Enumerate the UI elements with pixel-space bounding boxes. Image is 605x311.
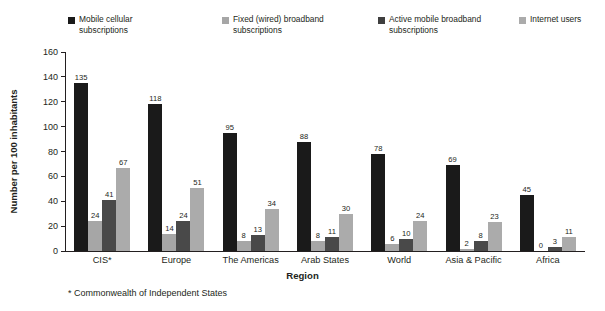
- x-axis-category-label: CIS*: [93, 255, 112, 265]
- bar-column: 11: [562, 52, 576, 251]
- bar-value-label: 10: [402, 229, 410, 238]
- y-axis-tick: 40: [48, 196, 65, 206]
- bar-group-bars: 450311: [511, 52, 585, 251]
- bar: [148, 104, 162, 251]
- chart-footnote: * Commonwealth of Independent States: [68, 288, 227, 298]
- bar: [474, 241, 488, 251]
- bar-column: 95: [223, 52, 237, 251]
- bar-value-label: 78: [374, 144, 382, 153]
- bar-value-label: 135: [75, 73, 88, 82]
- bar: [325, 237, 339, 251]
- bar-value-label: 23: [490, 212, 498, 221]
- bar-chart: Mobile cellular subscriptions Fixed (wir…: [0, 0, 605, 311]
- bar-group: 118142451Europe: [139, 52, 213, 251]
- bar: [399, 239, 413, 251]
- bar-group: 135244167CIS*: [65, 52, 139, 251]
- bar-value-label: 11: [328, 227, 336, 236]
- bar-column: 51: [190, 52, 204, 251]
- bar-value-label: 13: [253, 225, 261, 234]
- bar-value-label: 88: [300, 132, 308, 141]
- bar-value-label: 6: [390, 234, 394, 243]
- bar-group: 8881130Arab States: [288, 52, 362, 251]
- bar-column: 118: [148, 52, 162, 251]
- y-axis-tick: 20: [48, 221, 65, 231]
- bar: [311, 241, 325, 251]
- bar: [237, 241, 251, 251]
- bar-column: 34: [265, 52, 279, 251]
- legend-item-label: Mobile cellular subscriptions: [79, 14, 133, 36]
- y-axis-tick: 140: [43, 72, 65, 82]
- bar: [190, 188, 204, 251]
- bar-column: 10: [399, 52, 413, 251]
- bar-column: 8: [311, 52, 325, 251]
- bar-column: 14: [162, 52, 176, 251]
- bar: [88, 221, 102, 251]
- bar-value-label: 69: [448, 155, 456, 164]
- y-axis-tick: 60: [48, 171, 65, 181]
- y-axis-tick-label: 40: [48, 196, 58, 206]
- bar-value-label: 118: [149, 94, 161, 103]
- bar-column: 24: [413, 52, 427, 251]
- bar-value-label: 24: [416, 211, 424, 220]
- bar: [413, 221, 427, 251]
- bar-column: 24: [88, 52, 102, 251]
- bar: [265, 209, 279, 251]
- bar-group: 450311Africa: [511, 52, 585, 251]
- bar-column: 8: [237, 52, 251, 251]
- bar: [371, 154, 385, 251]
- chart-legend: Mobile cellular subscriptions Fixed (wir…: [0, 14, 605, 46]
- bar: [562, 237, 576, 251]
- y-axis-tick-label: 80: [48, 147, 58, 157]
- bar-column: 13: [251, 52, 265, 251]
- bar-column: 23: [488, 52, 502, 251]
- y-axis-tick: 160: [43, 47, 65, 57]
- legend-swatch-icon: [519, 17, 526, 24]
- bar: [223, 133, 237, 251]
- y-axis-tick-label: 0: [53, 246, 58, 256]
- bar: [162, 234, 176, 251]
- bar-value-label: 41: [105, 190, 113, 199]
- bar-value-label: 95: [225, 123, 233, 132]
- x-axis-category-label: Africa: [536, 255, 560, 265]
- bar-group: 692823Asia & Pacific: [436, 52, 510, 251]
- legend-item-active-mobile-broadband-subscriptions: Active mobile broadband subscriptions: [378, 14, 481, 36]
- y-axis-tick: 120: [43, 97, 65, 107]
- bar-column: 24: [176, 52, 190, 251]
- y-axis-tick-label: 120: [43, 97, 58, 107]
- y-axis-tick: 80: [48, 147, 65, 157]
- bar-group: 9581334The Americas: [214, 52, 288, 251]
- bar-column: 8: [474, 52, 488, 251]
- legend-item-label: Fixed (wired) broadband subscriptions: [233, 14, 324, 36]
- bar-column: 6: [385, 52, 399, 251]
- bar-group-bars: 7861024: [362, 52, 436, 251]
- legend-swatch-icon: [222, 17, 229, 24]
- bar-column: 135: [74, 52, 88, 251]
- plot-area: 020406080100120140160 135244167CIS*11814…: [65, 52, 585, 251]
- bar-column: 41: [102, 52, 116, 251]
- bar-column: 11: [325, 52, 339, 251]
- y-axis-tick: 0: [53, 246, 65, 256]
- bar-value-label: 14: [165, 224, 173, 233]
- bar: [339, 214, 353, 251]
- bar-column: 2: [460, 52, 474, 251]
- y-axis-tick: 100: [43, 122, 65, 132]
- bar-value-label: 51: [193, 178, 201, 187]
- legend-item-internet-users: Internet users: [519, 14, 581, 25]
- bar: [251, 235, 265, 251]
- bar-group-bars: 692823: [436, 52, 510, 251]
- bar-value-label: 67: [119, 158, 127, 167]
- bar: [548, 247, 562, 251]
- legend-swatch-icon: [378, 17, 385, 24]
- x-axis-title: Region: [0, 270, 605, 281]
- bar-group: 7861024World: [362, 52, 436, 251]
- legend-item-mobile-cellular-subscriptions: Mobile cellular subscriptions: [68, 14, 133, 36]
- bar: [74, 83, 88, 251]
- bar: [385, 244, 399, 251]
- bar-group-bars: 9581334: [214, 52, 288, 251]
- x-axis-category-label: The Americas: [223, 255, 279, 265]
- bar-group-bars: 8881130: [288, 52, 362, 251]
- legend-item-fixed-wired-broadband-subscriptions: Fixed (wired) broadband subscriptions: [222, 14, 324, 36]
- bar-column: 45: [520, 52, 534, 251]
- bar-column: 69: [446, 52, 460, 251]
- legend-item-label: Active mobile broadband subscriptions: [389, 14, 481, 36]
